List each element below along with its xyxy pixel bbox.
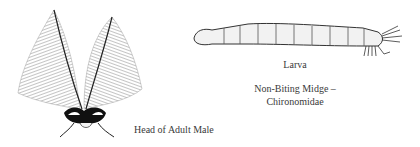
head-caption: Head of Adult Male	[134, 124, 214, 135]
midge-head-icon	[14, 5, 149, 140]
species-family-name: Chironomidae	[230, 95, 360, 108]
species-title: Non-Biting Midge – Chironomidae	[230, 82, 360, 108]
head-illustration	[14, 5, 149, 140]
species-common-name: Non-Biting Midge –	[230, 82, 360, 95]
larva-caption: Larva	[270, 59, 320, 70]
midge-larva-icon	[188, 16, 410, 58]
larva-illustration	[188, 16, 410, 58]
